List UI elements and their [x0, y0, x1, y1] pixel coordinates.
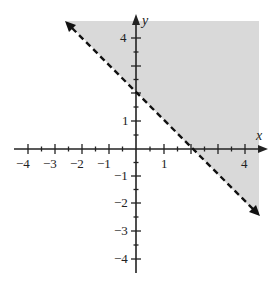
x-tick-label: 1	[161, 156, 168, 171]
x-tick-label: −2	[70, 156, 84, 171]
y-tick-label: −3	[114, 223, 128, 238]
y-axis-arrow-icon	[132, 14, 140, 25]
y-tick-label: −4	[114, 251, 128, 266]
x-axis-label: x	[255, 128, 263, 143]
x-tick-label: −1	[97, 156, 111, 171]
y-tick-label: 4	[120, 30, 127, 45]
y-axis-label: y	[140, 13, 149, 28]
x-tick-label: −3	[43, 156, 57, 171]
inequality-graph: x y −4 −3 −2 −1 1 4 4 1 −1 −2 −3 −4	[0, 0, 274, 289]
y-tick-label: −2	[114, 195, 128, 210]
x-axis-arrow-icon	[258, 145, 268, 153]
y-tick-label: 1	[122, 113, 129, 128]
x-tick-label: 4	[241, 156, 248, 171]
y-tick-label: −1	[114, 168, 128, 183]
x-tick-label: −4	[16, 156, 30, 171]
